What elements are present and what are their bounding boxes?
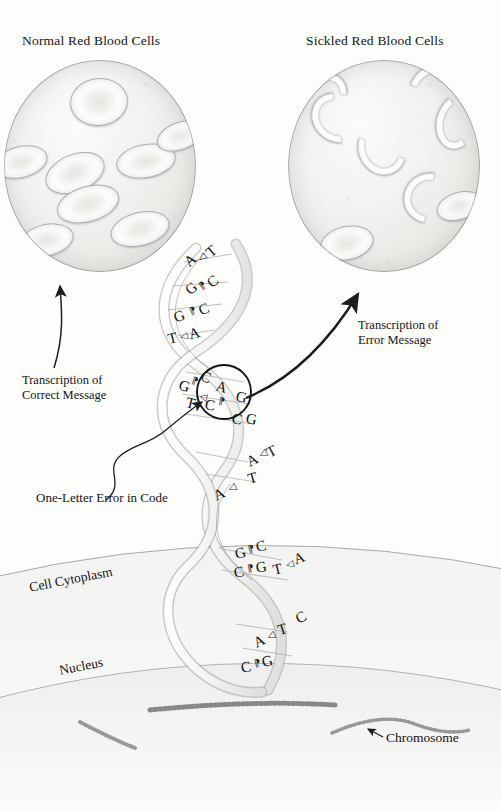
arrow-error-message [246,294,358,398]
label-transcription-correct: Transcription of Correct Message [22,373,106,403]
label-chromosome: Chromosome [386,730,459,745]
drawing-layer [0,0,501,810]
label-one-letter-error: One-Letter Error in Code [36,490,168,505]
dna-base: G [255,559,268,576]
figure-canvas: Normal Red Blood Cells Sickled Red Blood… [0,0,501,810]
arrow-correct-message [54,286,62,368]
label-transcription-error: Transcription of Error Message [358,318,438,348]
